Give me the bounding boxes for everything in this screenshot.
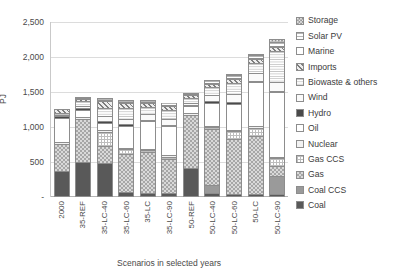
bar-segment-coal: [205, 194, 219, 196]
x-axis-tick-label: 50-LC-40: [204, 199, 220, 255]
bar-segment-oil: [227, 105, 241, 131]
bar-column: [75, 22, 91, 197]
bar-column: [269, 22, 285, 197]
bar-column: [161, 22, 177, 197]
legend-swatch-icon: [296, 140, 304, 148]
bar-stack: [226, 74, 242, 197]
x-axis-tick-label: 50-LC: [247, 199, 263, 255]
bar-segment-biowaste: [141, 108, 155, 116]
bar-stack: [140, 100, 156, 197]
bar-segment-gas: [205, 130, 219, 186]
bar-segment-gas: [184, 116, 198, 169]
x-axis-tick-label: 35-LC: [139, 199, 155, 255]
bar-segment-biowaste: [162, 111, 176, 120]
legend-item-label: Marine: [308, 47, 334, 56]
bar-segment-wind: [227, 95, 241, 103]
legend-item[interactable]: Storage: [296, 13, 414, 28]
bar-segment-oil: [270, 93, 284, 157]
x-axis-tick-text: 2000: [56, 201, 65, 219]
legend-item[interactable]: Biowaste & others: [296, 75, 414, 90]
legend-swatch-icon: [296, 32, 304, 40]
x-axis-title: Scenarios in selected years: [50, 258, 288, 268]
bar-segment-oil: [249, 83, 263, 127]
y-tick-1500: 1,500: [0, 87, 44, 97]
legend-swatch-icon: [296, 47, 304, 55]
legend-item[interactable]: Gas: [296, 167, 414, 182]
bar-segment-gas: [76, 120, 90, 164]
bar-segment-coal: [184, 169, 198, 196]
legend-item[interactable]: Imports: [296, 59, 414, 74]
legend-item[interactable]: Gas CCS: [296, 152, 414, 167]
bar-segment-coal: [270, 195, 284, 196]
legend-item-label: Gas: [308, 170, 324, 179]
bar-segment-biowaste: [227, 84, 241, 95]
legend-item[interactable]: Wind: [296, 90, 414, 105]
legend-item[interactable]: Marine: [296, 44, 414, 59]
bar-segment-gasccs: [270, 159, 284, 167]
x-axis-tick-label: 2000: [53, 199, 69, 255]
bar-stack: [54, 109, 70, 197]
bar-segment-biowaste: [119, 109, 133, 119]
x-axis-tick-label: 35-LC-90: [161, 199, 177, 255]
legend-item[interactable]: Coal: [296, 198, 414, 213]
bar-stack: [118, 100, 134, 197]
legend-item-label: Imports: [308, 63, 337, 72]
bar-segment-biowaste: [270, 52, 284, 82]
bar-segment-coal: [55, 172, 69, 196]
bar-segment-coalccs: [205, 186, 219, 194]
legend-item[interactable]: Nuclear: [296, 136, 414, 151]
bar-segment-coal: [249, 195, 263, 196]
legend-item-label: Coal CCS: [308, 186, 346, 195]
bar-segment-gasccs: [227, 132, 241, 140]
legend-item-label: Solar PV: [308, 32, 342, 41]
legend-item[interactable]: Coal CCS: [296, 182, 414, 197]
bar-segment-coal: [76, 163, 90, 196]
bar-segment-gas: [55, 145, 69, 172]
y-tick-2000: 2,000: [0, 52, 44, 62]
bar-column: [226, 22, 242, 197]
bar-segment-oil: [205, 104, 219, 127]
legend-item[interactable]: Hydro: [296, 105, 414, 120]
legend-item[interactable]: Solar PV: [296, 28, 414, 43]
bar-segment-coal: [227, 195, 241, 196]
bar-segment-coal: [162, 194, 176, 196]
legend-item-label: Wind: [308, 93, 328, 102]
stacked-bar-chart: PJ 2,500 2,000 1,500 1,000 500 - 200035-…: [0, 0, 416, 276]
x-axis-tick-text: 35-LC-40: [100, 201, 109, 234]
bar-segment-oil: [55, 119, 69, 143]
bar-segment-coal: [141, 194, 155, 196]
bar-segment-gasccs: [98, 133, 112, 147]
x-axis-tick-text: 35-LC-60: [121, 201, 130, 234]
x-axis-tick-text: 50-REF: [186, 201, 195, 229]
plot-area: [50, 22, 288, 197]
legend-item-label: Oil: [308, 124, 319, 133]
legend-swatch-icon: [296, 186, 304, 194]
legend-item-label: Storage: [308, 16, 338, 25]
x-axis-labels: 200035-REF35-LC-4035-LC-6035-LC35-LC-905…: [50, 199, 288, 255]
bar-stack: [269, 39, 285, 197]
x-axis-tick-text: 50-LC-40: [208, 201, 217, 234]
bar-column: [248, 22, 264, 197]
bar-column: [54, 22, 70, 197]
bar-segment-gas: [249, 137, 263, 195]
bar-stack: [204, 80, 220, 197]
legend-item[interactable]: Oil: [296, 121, 414, 136]
y-axis-ticks: 2,500 2,000 1,500 1,000 500 -: [0, 22, 46, 197]
legend-swatch-icon: [296, 155, 304, 163]
x-axis-tick-label: 50-REF: [183, 199, 199, 255]
x-axis-tick-text: 50-LC-90: [273, 201, 282, 234]
bar-column: [140, 22, 156, 197]
bar-segment-oil: [184, 107, 198, 114]
bar-stack: [97, 98, 113, 197]
legend-item-label: Hydro: [308, 109, 331, 118]
legend-swatch-icon: [296, 94, 304, 102]
bar-segment-coal: [119, 193, 133, 196]
x-axis-tick-text: 50-LC-60: [229, 201, 238, 234]
bar-segment-gas: [270, 167, 284, 177]
bar-segment-oil: [98, 124, 112, 131]
legend-swatch-icon: [296, 17, 304, 25]
bar-column: [118, 22, 134, 197]
bar-segment-biowaste: [249, 64, 263, 74]
legend-item-label: Nuclear: [308, 140, 338, 149]
bar-segment-coalccs: [270, 177, 284, 196]
